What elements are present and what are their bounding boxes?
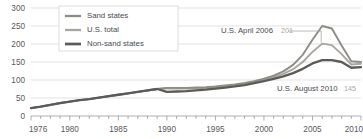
x-axis-tick-label: 2000 bbox=[255, 125, 274, 134]
annotation-value-august-2010: 145 bbox=[344, 84, 356, 93]
series-line-u-s-total bbox=[31, 44, 361, 108]
annotation-label-april-2006: U.S. April 2006 bbox=[221, 26, 273, 35]
annotation-label-august-2010: U.S. August 2010 bbox=[277, 84, 338, 93]
y-axis-tick-label: 200 bbox=[11, 40, 25, 49]
legend-label-u-s-total: U.S. total bbox=[87, 25, 119, 34]
y-axis-tick-label: 300 bbox=[11, 4, 25, 13]
x-axis-tick-label: 1990 bbox=[158, 125, 177, 134]
y-axis-tick-label: 250 bbox=[11, 22, 25, 31]
line-chart: 0501001502002503001976198019851990199520… bbox=[0, 0, 363, 139]
x-axis-tick-label: 1985 bbox=[109, 125, 128, 134]
chart-canvas: 0501001502002503001976198019851990199520… bbox=[0, 0, 363, 139]
y-axis-tick-label: 50 bbox=[16, 94, 26, 103]
annotation-value-april-2006: 201 bbox=[281, 26, 293, 35]
y-axis-tick-label: 0 bbox=[20, 112, 25, 121]
x-axis-tick-label: 1976 bbox=[29, 125, 48, 134]
legend-label-sand-states: Sand states bbox=[87, 11, 128, 20]
x-axis-tick-label: 2005 bbox=[303, 125, 322, 134]
y-axis-tick-label: 150 bbox=[11, 58, 25, 67]
y-axis-tick-label: 100 bbox=[11, 76, 25, 85]
x-axis-tick-label: 1980 bbox=[61, 125, 80, 134]
x-axis-tick-label: 1995 bbox=[206, 125, 225, 134]
x-axis-tick-label: 2010 bbox=[345, 125, 363, 134]
legend-label-non-sand-states: Non-sand states bbox=[87, 39, 144, 48]
